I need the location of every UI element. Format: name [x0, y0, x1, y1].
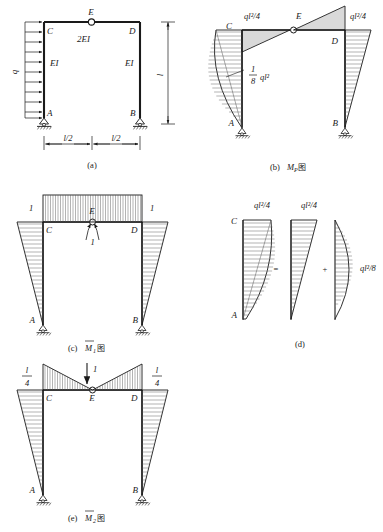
dimension-height: [161, 22, 175, 124]
label-D: D: [128, 26, 136, 36]
panel-c-caption-cjk: 图: [97, 344, 105, 353]
mp-right-column-area: [345, 30, 371, 127]
panel-b-caption-cjk: 图: [298, 163, 306, 172]
d-shape-triangle: [291, 220, 317, 320]
panel-d: ql²/4 C A =: [231, 200, 377, 349]
support-A: [37, 118, 52, 129]
label-EI-left: EI: [49, 58, 59, 68]
distributed-load-q: [25, 22, 42, 118]
label-A-c: A: [29, 315, 36, 325]
label-A-e: A: [29, 485, 36, 495]
m2-left-numerator: l: [26, 365, 29, 375]
label-B-b: B: [333, 118, 339, 128]
dimension-widths: [44, 136, 140, 150]
label-C: C: [47, 26, 54, 36]
label-E-b: E: [295, 11, 302, 21]
d-shape-combined: [243, 220, 275, 320]
label-D-c: D: [130, 225, 138, 235]
panel-a: q C: [9, 7, 175, 170]
panel-c-caption-sub: 1: [93, 348, 96, 354]
frame-members: [44, 22, 140, 118]
m2-unit-force-label: 1: [93, 364, 97, 374]
panel-a-caption: (a): [87, 160, 97, 170]
mp-mid-value: 1 8 ql²: [249, 64, 270, 86]
frame-members-e: [43, 390, 142, 495]
m2-left-denominator: 4: [25, 378, 30, 388]
label-C-d: C: [231, 216, 238, 226]
m2-right-denominator: 4: [155, 378, 160, 388]
label-EI-right: EI: [124, 58, 134, 68]
m2-beam-left-area: [43, 364, 93, 390]
panel-c-caption-prefix: (c): [68, 343, 78, 353]
mp-beam-left-area: [242, 30, 290, 52]
panel-e-caption-symbol: M: [84, 513, 93, 523]
d-third-value: ql²/8: [360, 263, 377, 273]
label-E: E: [87, 7, 94, 17]
m2-left-column-area: [17, 390, 43, 495]
mp-left-column-area: [208, 30, 242, 127]
panel-c-caption: (c) M 1 图: [68, 341, 105, 354]
panel-b: 1 8 ql²: [208, 6, 371, 173]
m1-right-value: 1: [150, 203, 154, 213]
d-shape-parabola: [335, 220, 353, 320]
dimension-left-label: l/2: [64, 133, 74, 143]
panel-e-caption-cjk: 图: [97, 514, 105, 523]
mp-right-top-value: ql²/4: [350, 11, 367, 21]
panel-b-caption: (b) M P 图: [270, 162, 306, 173]
m2-right-fraction: l 4: [152, 365, 162, 388]
panel-c-caption-symbol: M: [84, 343, 93, 353]
panel-e-caption-prefix: (e): [68, 513, 78, 523]
label-E-c: E: [88, 206, 95, 216]
d-first-value: ql²/4: [254, 200, 271, 210]
panel-c: 1 C D: [17, 195, 168, 354]
support-B: [133, 118, 148, 129]
label-B-c: B: [133, 315, 139, 325]
mp-left-top-value: ql²/4: [244, 11, 261, 21]
d-plus-sign: +: [323, 264, 328, 274]
label-A-b: A: [228, 118, 235, 128]
label-C-e: C: [46, 393, 53, 403]
panel-b-caption-prefix: (b): [270, 162, 280, 172]
mp-mid-denominator: 8: [251, 76, 256, 86]
dimension-height-label: l: [155, 73, 165, 76]
support-A-c: [37, 325, 52, 336]
m1-left-column-area: [17, 222, 43, 325]
d-equals-sign: =: [274, 264, 279, 274]
support-B-b: [339, 128, 354, 139]
support-B-e: [136, 495, 151, 506]
m2-left-fraction: l 4: [22, 365, 32, 388]
panel-e-caption-sub: 2: [93, 518, 96, 524]
support-A-b: [236, 128, 251, 139]
m2-right-column-area: [142, 390, 168, 495]
load-label-q: q: [9, 69, 19, 74]
mp-mid-expression: ql²: [260, 72, 270, 82]
label-B-e: B: [133, 485, 139, 495]
d-second-value: ql²/4: [301, 200, 318, 210]
panel-e-caption: (e) M 2 图: [68, 511, 105, 524]
m1-left-value: 1: [29, 203, 33, 213]
panel-e: 1 C D: [17, 363, 168, 524]
m2-right-numerator: l: [156, 365, 159, 375]
label-C-c: C: [46, 225, 53, 235]
panel-d-caption: (d): [295, 339, 305, 349]
label-A-d: A: [231, 310, 238, 320]
figure-sheet: q C: [0, 0, 383, 532]
label-B: B: [130, 108, 136, 118]
dimension-right-label: l/2: [112, 133, 122, 143]
label-E-e: E: [88, 393, 95, 403]
hinge-E-icon: [88, 19, 94, 25]
m1-unit-label: 1: [90, 237, 94, 247]
label-2EI: 2EI: [77, 34, 91, 44]
support-B-c: [136, 325, 151, 336]
label-D-b: D: [331, 36, 339, 46]
m2-beam-right-area: [93, 364, 143, 390]
mp-mid-numerator: 1: [251, 64, 255, 74]
label-C-b: C: [226, 21, 233, 31]
support-A-e: [37, 495, 52, 506]
label-A: A: [46, 108, 53, 118]
m1-right-column-area: [142, 222, 168, 325]
label-D-e: D: [130, 393, 138, 403]
